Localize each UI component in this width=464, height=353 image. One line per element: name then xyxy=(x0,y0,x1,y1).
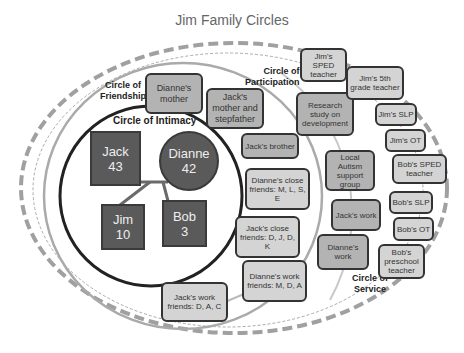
box-diannes-work-friends: Dianne's work friends: M, D, A xyxy=(242,260,307,302)
box-jacks-close-friends: Jack's close friends: D, J, D, K xyxy=(235,216,300,258)
node-bob-age: 3 xyxy=(173,224,196,239)
friendship-label-line2: Friendship xyxy=(100,91,146,102)
box-jacks-mother-stepfather: Jack's mother and stepfather xyxy=(206,88,264,129)
box-jacks-brother: Jack's brother xyxy=(241,133,299,159)
intimacy-label: Circle of Intimacy xyxy=(113,115,196,126)
box-diannes-mother: Dianne's mother xyxy=(145,73,203,114)
box-bobs-ot: Bob's OT xyxy=(393,217,434,241)
friendship-label-line1: Circle of xyxy=(100,80,146,91)
node-bob: Bob3 xyxy=(162,200,207,247)
participation-label-line1: Circle of xyxy=(245,66,300,77)
node-jim-name: Jim xyxy=(113,212,133,227)
node-jim-age: 10 xyxy=(113,227,133,242)
node-dianne-age: 42 xyxy=(168,161,209,176)
intimacy-ring xyxy=(60,106,242,286)
node-dianne-name: Dianne xyxy=(168,146,209,161)
node-dianne: Dianne42 xyxy=(159,131,219,191)
box-jims-ot: Jim's OT xyxy=(385,129,426,152)
node-jack-name: Jack xyxy=(102,144,129,159)
box-diannes-work: Dianne's work xyxy=(317,234,369,270)
box-local-autism-group: Local Autism support group xyxy=(325,150,375,191)
node-jim: Jim10 xyxy=(101,204,145,250)
box-jacks-work: Jack's work xyxy=(331,199,381,231)
box-research-study: Research study on development xyxy=(296,92,354,136)
box-jacks-work-friends: Jack's work friends: D, A, C xyxy=(161,282,228,322)
participation-label: Circle of Participation xyxy=(245,66,300,88)
box-bobs-preschool-teacher: Bob's preschool teacher xyxy=(378,244,425,279)
service-label-line2: Service xyxy=(352,284,388,295)
participation-label-line2: Participation xyxy=(245,77,300,88)
box-diannes-close-friends: Dianne's close friends: M, L, S, E xyxy=(245,168,310,210)
box-jims-sped-teacher: Jim's SPED teacher xyxy=(300,48,347,82)
box-jims-5th-grade-teacher: Jim's 5th grade teacher xyxy=(346,66,404,100)
box-bobs-slp: Bob's SLP xyxy=(389,191,433,214)
friendship-label: Circle of Friendship xyxy=(100,80,146,102)
box-jims-slp: Jim's SLP xyxy=(375,103,417,126)
node-bob-name: Bob xyxy=(173,209,196,224)
node-jack-age: 43 xyxy=(102,159,129,174)
node-jack: Jack43 xyxy=(90,131,141,186)
box-bobs-sped-teacher: Bob's SPED teacher xyxy=(392,154,447,184)
